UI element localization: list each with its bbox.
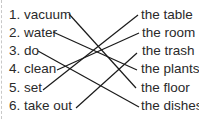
match-line-takeout-trash: [76, 53, 137, 108]
right-item-trash: the trash: [142, 43, 195, 59]
left-item-clean: 4. clean: [9, 61, 56, 77]
left-item-set: 5. set: [9, 80, 42, 96]
right-item-room: the room: [142, 25, 195, 41]
right-item-floor: the floor: [141, 80, 190, 96]
right-item-dishes: the dishes: [141, 98, 199, 114]
left-item-water: 2. water: [9, 25, 57, 41]
right-item-plants: the plants: [141, 61, 199, 77]
match-line-set-table: [43, 15, 138, 90]
match-line-clean-room: [57, 33, 139, 70]
right-item-table: the table: [141, 7, 193, 23]
left-item-do: 3. do: [9, 43, 39, 59]
left-item-take-out: 6. take out: [9, 98, 72, 114]
left-item-vacuum: 1. vacuum: [9, 7, 71, 23]
